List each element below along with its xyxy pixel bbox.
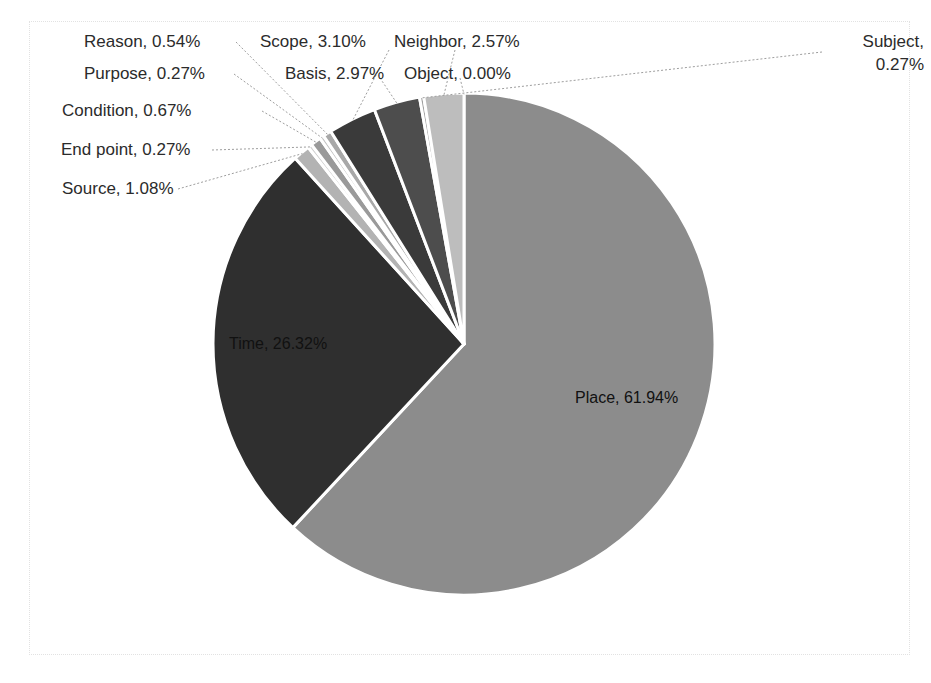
- slice-label-condition: Condition, 0.67%: [62, 100, 191, 123]
- slice-label-neighbor: Neighbor, 2.57%: [394, 31, 520, 54]
- slice-label-basis: Basis, 2.97%: [285, 63, 384, 86]
- leader-line-condition: [262, 111, 317, 143]
- slice-label-source: Source, 1.08%: [62, 178, 174, 201]
- slice-label-place: Place, 61.94%: [575, 389, 678, 407]
- slice-label-subject: Subject, 0.27%: [828, 31, 924, 77]
- slice-label-purpose: Purpose, 0.27%: [84, 63, 205, 86]
- slice-label-reason: Reason, 0.54%: [84, 31, 200, 54]
- pie-chart: Reason, 0.54% Purpose, 0.27% Condition, …: [0, 0, 931, 683]
- leader-line-reason: [236, 42, 328, 135]
- slice-label-end-point: End point, 0.27%: [61, 139, 190, 162]
- slice-label-time: Time, 26.32%: [229, 335, 327, 353]
- slice-label-object: Object, 0.00%: [404, 63, 511, 86]
- leader-line-end-point: [212, 147, 311, 150]
- slice-label-scope: Scope, 3.10%: [260, 31, 366, 54]
